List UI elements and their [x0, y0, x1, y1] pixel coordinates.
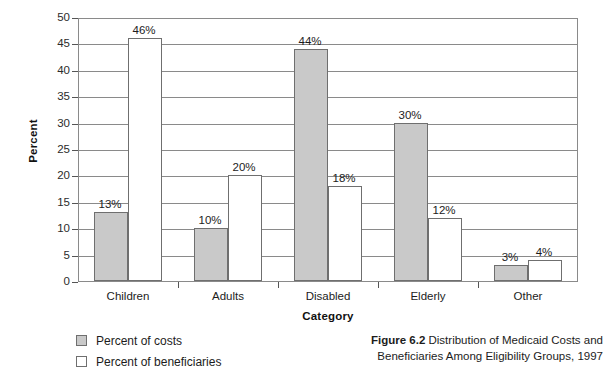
x-category-label-elderly: Elderly [378, 290, 478, 302]
legend-swatch-beneficiaries-icon [76, 356, 87, 367]
y-tick-label: 30 [40, 118, 70, 130]
x-category-label-children: Children [78, 290, 178, 302]
bar-other-beneficiaries [528, 260, 562, 281]
bar-value-label: 13% [88, 199, 132, 211]
legend-label-costs: Percent of costs [96, 335, 182, 347]
y-tick-label: 50 [40, 12, 70, 24]
bar-adults-costs [194, 228, 228, 281]
figure-number: Figure 6.2 [371, 334, 425, 346]
bar-value-label: 44% [288, 36, 332, 48]
x-tick-mark [478, 282, 479, 288]
legend-item-beneficiaries[interactable]: Percent of beneficiaries [76, 351, 221, 372]
bar-value-label: 12% [422, 205, 466, 217]
y-tick-label: 45 [40, 38, 70, 50]
figure-caption: Figure 6.2 Distribution of Medicaid Cost… [337, 333, 603, 364]
bar-adults-beneficiaries [228, 175, 262, 281]
y-tick-label: 20 [40, 170, 70, 182]
legend-label-beneficiaries: Percent of beneficiaries [96, 356, 221, 368]
y-tick-label: 10 [40, 223, 70, 235]
bar-other-costs [494, 265, 528, 281]
x-tick-mark [378, 282, 379, 288]
y-tick-label: 0 [40, 276, 70, 288]
bar-value-label: 10% [188, 215, 232, 227]
x-category-label-other: Other [478, 290, 578, 302]
y-tick-label: 25 [40, 144, 70, 156]
y-tick-label: 15 [40, 197, 70, 209]
x-category-label-adults: Adults [178, 290, 278, 302]
x-tick-mark [278, 282, 279, 288]
bar-value-label: 46% [122, 25, 166, 37]
legend-item-costs[interactable]: Percent of costs [76, 330, 221, 351]
bar-disabled-beneficiaries [328, 186, 362, 281]
bar-disabled-costs [294, 49, 328, 281]
y-axis-tick-labels: 05101520253035404550 [40, 0, 70, 379]
bar-value-label: 4% [522, 247, 566, 259]
y-axis-title: Percent [27, 96, 39, 186]
legend-swatch-costs-icon [76, 335, 87, 346]
legend: Percent of costs Percent of beneficiarie… [76, 330, 221, 372]
bar-value-label: 20% [222, 162, 266, 174]
bar-elderly-beneficiaries [428, 218, 462, 281]
x-category-label-disabled: Disabled [278, 290, 378, 302]
bar-elderly-costs [394, 123, 428, 281]
bar-children-costs [94, 212, 128, 281]
y-tick-mark [72, 282, 78, 283]
plot-area [78, 18, 578, 282]
x-tick-mark [178, 282, 179, 288]
figure-medicaid-distribution: Percent 05101520253035404550 13%46%10%20… [0, 0, 611, 379]
bar-value-label: 18% [322, 173, 366, 185]
bar-children-beneficiaries [128, 38, 162, 281]
y-tick-label: 40 [40, 65, 70, 77]
x-axis-title: Category [78, 310, 578, 322]
bar-value-label: 30% [388, 110, 432, 122]
y-tick-label: 35 [40, 91, 70, 103]
y-tick-label: 5 [40, 250, 70, 262]
